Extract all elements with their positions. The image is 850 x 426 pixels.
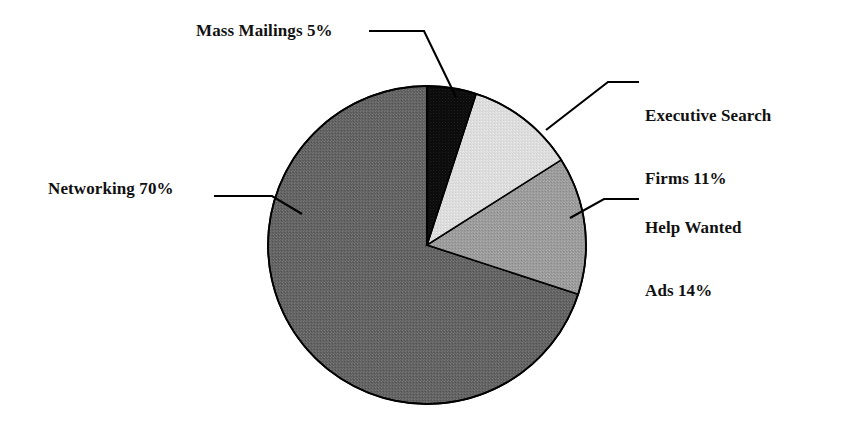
pie-label-networking: Networking 70% <box>48 178 174 199</box>
pie-label-help-wanted-ads: Help Wanted Ads 14% <box>645 175 742 343</box>
pie-label-executive-search-firms-line1: Executive Search <box>645 105 771 126</box>
pie-label-help-wanted-ads-line1: Help Wanted <box>645 217 742 238</box>
leader-line-executive-search-firms <box>546 82 639 130</box>
pie-label-mass-mailings: Mass Mailings 5% <box>196 20 333 41</box>
pie-label-help-wanted-ads-line2: Ads 14% <box>645 280 742 301</box>
pie-chart-figure: Mass Mailings 5% Executive Search Firms … <box>0 0 850 426</box>
